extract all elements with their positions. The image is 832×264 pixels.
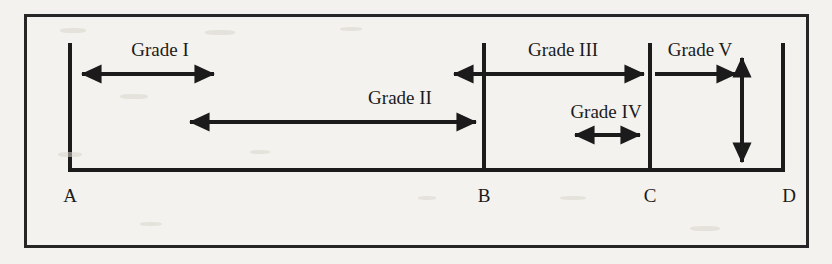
- grade-2-label: Grade II: [368, 88, 432, 107]
- point-label-c: C: [644, 186, 657, 205]
- scan-speckle: [60, 28, 86, 33]
- point-label-a: A: [63, 186, 77, 205]
- scan-speckle: [58, 152, 82, 157]
- point-label-d: D: [782, 186, 796, 205]
- grade-3-label: Grade III: [528, 40, 598, 59]
- grade-5-label: Grade V: [668, 40, 733, 59]
- scan-speckle: [690, 226, 720, 231]
- scan-speckle: [205, 30, 235, 35]
- scan-speckle: [120, 94, 148, 99]
- scan-speckle: [250, 150, 270, 154]
- grade-1-label: Grade I: [131, 40, 189, 59]
- scan-speckle: [140, 222, 162, 226]
- point-label-b: B: [478, 186, 491, 205]
- grade-4-label: Grade IV: [570, 102, 641, 121]
- grade-classification-diagram: Grade I Grade II Grade III Grade IV Grad…: [0, 0, 832, 264]
- scan-speckle: [418, 196, 436, 200]
- scan-speckle: [340, 27, 362, 31]
- scan-speckle: [560, 196, 586, 200]
